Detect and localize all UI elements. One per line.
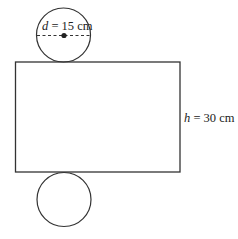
diameter-value: = 15 cm [48,19,92,33]
bottom-circle [37,173,91,227]
diameter-label: d = 15 cm [42,19,93,33]
lateral-rectangle [16,62,181,172]
center-dot [61,33,66,38]
top-circle-group: d = 15 cm [37,8,93,62]
height-label: h = 30 cm [184,111,235,125]
cylinder-net-diagram: d = 15 cm h = 30 cm [0,0,238,239]
height-value: = 30 cm [190,111,234,125]
